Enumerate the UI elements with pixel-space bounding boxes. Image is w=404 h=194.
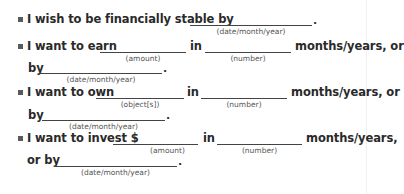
goal-4-or-by: or by <box>27 153 60 167</box>
goal-2-period: . <box>163 62 167 75</box>
goal-4-date-blank[interactable] <box>54 166 177 167</box>
goal-3-in: in <box>187 85 199 99</box>
goal-4-suffix: months/years, <box>306 131 397 145</box>
goal-2-in: in <box>190 39 202 53</box>
goal-1-prefix: I wish to be financially stable by <box>27 12 234 26</box>
goal-4-prefix: I want to invest $ <box>27 131 139 145</box>
goal-3-suffix: months/years, or <box>291 85 400 99</box>
goal-3-number-hint: (number) <box>201 100 287 109</box>
goal-4-amount-hint: (amount) <box>125 146 210 155</box>
goal-4-number-blank[interactable] <box>217 144 302 145</box>
goal-1-period: . <box>313 14 317 27</box>
bullet-icon <box>18 136 23 141</box>
goal-2-amount-hint: (amount) <box>100 54 186 63</box>
goal-2-date-hint: (date/month/year) <box>40 75 162 84</box>
bullet-icon <box>18 90 23 95</box>
bullet-icon <box>18 17 23 22</box>
goal-3-period: . <box>166 109 170 122</box>
goal-1-date-hint: (date/month/year) <box>190 27 312 36</box>
goal-3-date-hint: (date/month/year) <box>42 122 165 131</box>
goal-2-number-blank[interactable] <box>205 52 291 53</box>
goal-4-date-hint: (date/month/year) <box>54 168 177 177</box>
goal-3-object-blank[interactable] <box>96 98 184 99</box>
goal-2-date-blank[interactable] <box>40 73 162 74</box>
goal-3-number-blank[interactable] <box>201 98 287 99</box>
goal-2-amount-blank[interactable] <box>100 52 186 53</box>
goal-4-in: in <box>203 131 215 145</box>
goal-3-prefix: I want to own <box>27 85 114 99</box>
goal-2-prefix: I want to earn <box>27 39 117 53</box>
goal-3-object-hint: (object[s]) <box>96 100 184 109</box>
goal-4-number-hint: (number) <box>217 146 302 155</box>
goal-3-date-blank[interactable] <box>42 120 165 121</box>
goal-4-amount-blank[interactable] <box>113 144 198 145</box>
bullet-icon <box>18 44 23 49</box>
goal-2-suffix: months/years, or <box>295 39 404 53</box>
goal-4-period: . <box>178 155 182 168</box>
goal-2-number-hint: (number) <box>205 54 291 63</box>
goal-1-date-blank[interactable] <box>190 25 312 26</box>
